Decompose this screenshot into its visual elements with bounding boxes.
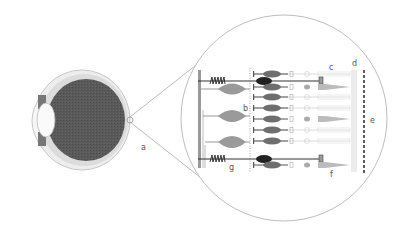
label-f: f — [330, 170, 333, 179]
label-e: e — [370, 116, 375, 125]
vitreous-body — [47, 79, 125, 161]
nerve-fiber-bundle — [198, 70, 201, 168]
eyeball — [32, 70, 133, 170]
label-b: b — [243, 104, 248, 113]
label-a: a — [141, 143, 146, 152]
pigment-epithelium — [351, 70, 357, 172]
lens — [37, 103, 55, 137]
label-d: d — [352, 59, 357, 68]
label-g: g — [229, 163, 234, 172]
eye-retina-diagram: a b c d e f g — [0, 0, 404, 233]
label-c: c — [329, 63, 333, 72]
